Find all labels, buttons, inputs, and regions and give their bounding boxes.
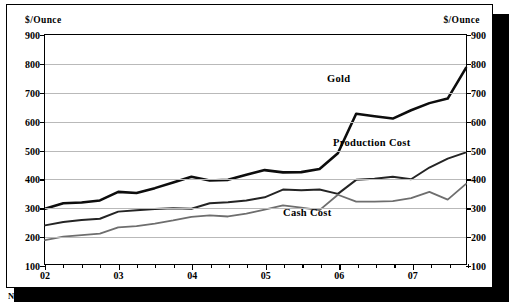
grid-line xyxy=(45,93,466,94)
y-tick-mark-left xyxy=(40,151,45,152)
grid-line xyxy=(45,208,466,209)
right-axis-unit-label: $/Ounce xyxy=(443,15,480,25)
footnote: Note: Production and Cash Cost From BMD xyxy=(8,291,170,302)
x-tick-label: 07 xyxy=(408,270,418,281)
grid-line xyxy=(45,64,466,65)
y-tick-label-left: 900 xyxy=(25,30,40,41)
x-tick-label: 06 xyxy=(334,270,344,281)
y-tick-mark-left xyxy=(40,93,45,94)
x-tick-mark-minor xyxy=(229,264,230,268)
x-tick-mark-minor xyxy=(431,264,432,268)
y-tick-mark-left xyxy=(40,122,45,123)
y-tick-label-right: 600 xyxy=(471,116,486,127)
y-tick-label-right: 400 xyxy=(471,174,486,185)
y-tick-label-left: 300 xyxy=(25,203,40,214)
x-tick-mark-minor xyxy=(321,264,322,268)
y-tick-mark-left xyxy=(40,208,45,209)
x-tick-label: 02 xyxy=(40,270,50,281)
y-tick-mark-left xyxy=(40,35,45,36)
x-tick-mark-minor xyxy=(394,264,395,268)
y-tick-mark-left xyxy=(40,64,45,65)
x-tick-label: 04 xyxy=(187,270,197,281)
series-label-production-cost: Production Cost xyxy=(333,137,411,148)
x-tick-mark-minor xyxy=(450,264,451,268)
y-tick-label-right: 700 xyxy=(471,87,486,98)
x-tick-mark-minor xyxy=(302,264,303,268)
x-tick-mark-minor xyxy=(174,264,175,268)
plot-area: Gold Production Cost Cash Cost 100100200… xyxy=(44,34,467,265)
x-tick-mark-minor xyxy=(211,264,212,268)
y-tick-label-left: 500 xyxy=(25,145,40,156)
y-tick-label-left: 100 xyxy=(25,261,40,272)
x-tick-mark-minor xyxy=(376,264,377,268)
series-label-gold: Gold xyxy=(327,73,350,84)
y-tick-label-left: 700 xyxy=(25,87,40,98)
x-tick-mark-minor xyxy=(284,264,285,268)
x-tick-label: 03 xyxy=(114,270,124,281)
x-tick-mark-minor xyxy=(247,264,248,268)
y-tick-label-left: 600 xyxy=(25,116,40,127)
x-tick-mark-minor xyxy=(358,264,359,268)
series-line-production-cost xyxy=(45,152,466,225)
chart-screenshot: $/Ounce $/Ounce Gold Production Cost Cas… xyxy=(0,0,509,302)
grid-line xyxy=(45,151,466,152)
x-tick-mark-minor xyxy=(82,264,83,268)
y-tick-label-left: 400 xyxy=(25,174,40,185)
y-tick-label-left: 200 xyxy=(25,232,40,243)
y-tick-label-right: 300 xyxy=(471,203,486,214)
x-tick-mark-minor xyxy=(100,264,101,268)
grid-line xyxy=(45,179,466,180)
y-tick-mark-left xyxy=(40,237,45,238)
grid-line xyxy=(45,122,466,123)
x-tick-mark-minor xyxy=(63,264,64,268)
series-line-cash-cost xyxy=(45,184,466,240)
y-tick-label-right: 100 xyxy=(471,261,486,272)
series-lines xyxy=(45,35,466,264)
chart-card: $/Ounce $/Ounce Gold Production Cost Cas… xyxy=(6,4,493,288)
y-tick-mark-left xyxy=(40,179,45,180)
x-tick-mark-minor xyxy=(468,264,469,268)
grid-line xyxy=(45,237,466,238)
x-tick-mark-minor xyxy=(155,264,156,268)
y-tick-label-left: 800 xyxy=(25,58,40,69)
x-tick-mark-minor xyxy=(137,264,138,268)
y-tick-label-right: 200 xyxy=(471,232,486,243)
y-tick-label-right: 800 xyxy=(471,58,486,69)
x-tick-label: 05 xyxy=(261,270,271,281)
left-axis-unit-label: $/Ounce xyxy=(25,15,62,25)
y-tick-label-right: 900 xyxy=(471,30,486,41)
y-tick-label-right: 500 xyxy=(471,145,486,156)
